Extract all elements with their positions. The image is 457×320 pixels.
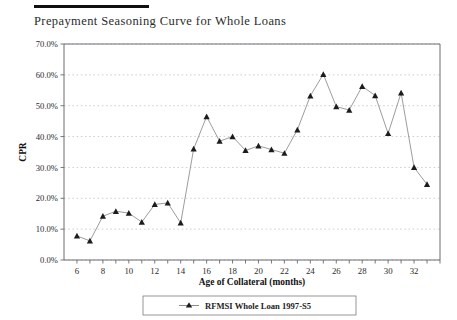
y-axis-tick-label: 10.0% <box>36 224 58 234</box>
x-axis-tick-label: 18 <box>228 266 237 276</box>
x-axis-tick-label: 10 <box>124 266 133 276</box>
data-point-marker <box>398 90 404 96</box>
data-point-marker <box>411 164 417 170</box>
data-point-marker <box>165 200 171 206</box>
y-axis-tick-label: 50.0% <box>36 101 58 111</box>
y-axis-title: CPR <box>18 142 28 161</box>
legend-label-rfmsi: RFMSI Whole Loan 1997-S5 <box>205 301 311 311</box>
x-axis-tick-label: 24 <box>306 266 315 276</box>
data-point-marker <box>74 233 80 239</box>
data-point-marker <box>372 92 378 98</box>
data-point-marker <box>100 213 106 219</box>
chart-container: 0.0%10.0%20.0%30.0%40.0%50.0%60.0%70.0% … <box>0 0 457 320</box>
data-point-marker <box>178 220 184 226</box>
data-point-marker <box>113 208 119 214</box>
x-axis-tick-label: 20 <box>254 266 263 276</box>
data-point-marker <box>320 71 326 77</box>
x-axis-title: Age of Collateral (months) <box>199 277 306 288</box>
y-axis-tick-label: 20.0% <box>36 193 58 203</box>
data-point-marker <box>294 127 300 133</box>
data-point-marker <box>255 143 261 149</box>
x-axis-tick-label: 12 <box>150 266 159 276</box>
y-axis-tick-label: 40.0% <box>36 132 58 142</box>
x-axis-tick-label: 26 <box>332 266 341 276</box>
data-point-marker <box>333 104 339 110</box>
x-axis-tick-label: 14 <box>176 266 185 276</box>
y-axis-tick-label: 0.0% <box>40 255 58 265</box>
data-point-marker <box>229 133 235 139</box>
y-axis-tick-label: 60.0% <box>36 70 58 80</box>
data-point-marker <box>385 130 391 136</box>
x-axis-ticks: 68101214161820222426283032 <box>75 260 440 276</box>
y-axis-tick-label: 70.0% <box>36 39 58 49</box>
data-point-marker <box>87 238 93 244</box>
data-point-marker <box>307 93 313 99</box>
chart-svg: 0.0%10.0%20.0%30.0%40.0%50.0%60.0%70.0% … <box>0 0 457 320</box>
data-point-marker <box>191 146 197 152</box>
axis-frame <box>64 44 440 260</box>
x-axis-tick-label: 32 <box>410 266 419 276</box>
x-axis-tick-label: 6 <box>75 266 80 276</box>
series-line-rfmsi <box>77 74 427 241</box>
x-axis-tick-label: 30 <box>384 266 393 276</box>
y-axis-ticks: 0.0%10.0%20.0%30.0%40.0%50.0%60.0%70.0% <box>36 39 64 265</box>
series-markers-rfmsi <box>74 71 430 243</box>
x-axis-tick-label: 22 <box>280 266 289 276</box>
data-point-marker <box>216 138 222 144</box>
gridlines <box>64 44 440 260</box>
data-point-marker <box>359 83 365 89</box>
data-point-marker <box>204 113 210 119</box>
x-axis-tick-label: 16 <box>202 266 211 276</box>
y-axis-tick-label: 30.0% <box>36 163 58 173</box>
x-axis-tick-label: 8 <box>101 266 106 276</box>
x-axis-tick-label: 28 <box>358 266 367 276</box>
